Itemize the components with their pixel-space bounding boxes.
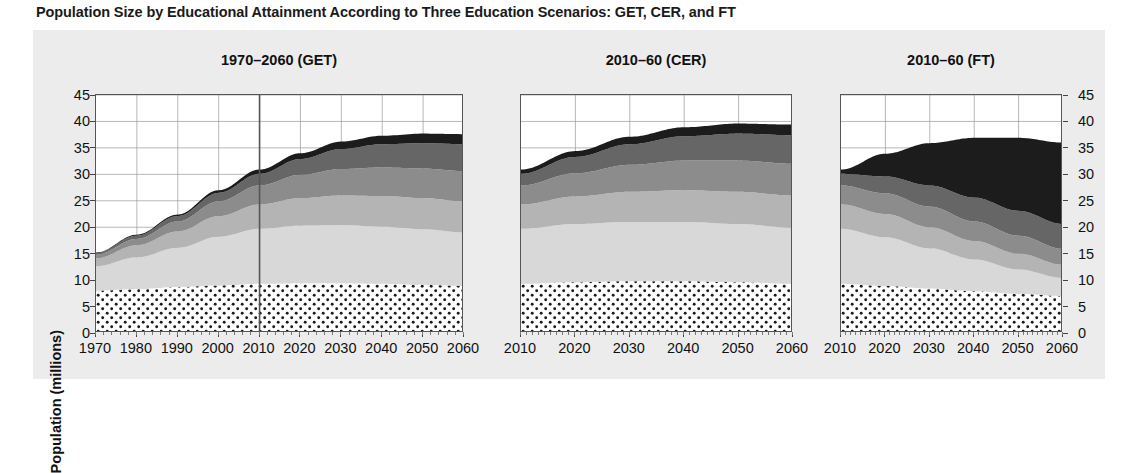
x-minor-tickmark bbox=[879, 332, 880, 335]
x-minor-tickmark bbox=[1013, 332, 1014, 335]
x-minor-tickmark bbox=[904, 332, 905, 335]
y-tickmark bbox=[90, 95, 95, 96]
x-minor-tickmark bbox=[762, 332, 763, 335]
x-minor-tickmark bbox=[152, 332, 153, 335]
x-minor-tickmark bbox=[120, 332, 121, 335]
x-minor-tickmark bbox=[332, 332, 333, 335]
x-minor-tickmark bbox=[968, 332, 969, 335]
x-axis-tick-get-2020: 2020 bbox=[283, 341, 315, 356]
x-minor-tickmark bbox=[617, 332, 618, 335]
x-minor-tickmark bbox=[750, 332, 751, 335]
x-minor-tickmark bbox=[1047, 332, 1048, 335]
x-minor-tickmark bbox=[726, 332, 727, 335]
x-minor-tickmark bbox=[993, 332, 994, 335]
x-minor-tickmark bbox=[177, 332, 178, 335]
x-axis-cer: 201020202030204020502060 bbox=[520, 341, 792, 361]
x-minor-tickmark bbox=[201, 332, 202, 335]
area-layer-0 bbox=[521, 281, 792, 332]
x-minor-tickmark bbox=[919, 332, 920, 335]
x-minor-tickmark bbox=[193, 332, 194, 335]
panel-title-get: 1970–2060 (GET) bbox=[95, 52, 463, 68]
x-minor-tickmark bbox=[958, 332, 959, 335]
x-axis-ft: 201020202030204020502060 bbox=[840, 341, 1062, 361]
x-minor-tickmark bbox=[929, 332, 930, 335]
x-axis-tick-cer-2040: 2040 bbox=[667, 341, 699, 356]
x-minor-tickmark bbox=[580, 332, 581, 335]
y-axis-tick-right-40: 40 bbox=[1078, 114, 1094, 129]
panel-title-cer: 2010–60 (CER) bbox=[520, 52, 792, 68]
plot-area-cer bbox=[520, 94, 792, 332]
x-axis-tick-ft-2010: 2010 bbox=[824, 341, 856, 356]
x-axis-tick-get-2030: 2030 bbox=[324, 341, 356, 356]
x-minor-tickmark bbox=[526, 332, 527, 335]
x-minor-tickmark bbox=[316, 332, 317, 335]
x-minor-tickmark bbox=[250, 332, 251, 335]
x-minor-tickmark bbox=[209, 332, 210, 335]
x-minor-tickmark bbox=[593, 332, 594, 335]
x-minor-tickmark bbox=[909, 332, 910, 335]
y-tickmark bbox=[1063, 306, 1068, 307]
y-tickmark bbox=[90, 253, 95, 254]
x-minor-tickmark bbox=[738, 332, 739, 335]
x-minor-tickmark bbox=[1032, 332, 1033, 335]
y-tickmark bbox=[1063, 253, 1068, 254]
x-minor-tickmark bbox=[1052, 332, 1053, 335]
x-minor-tickmark bbox=[689, 332, 690, 335]
x-minor-tickmark bbox=[308, 332, 309, 335]
y-tickmark bbox=[90, 306, 95, 307]
x-axis-tick-cer-2030: 2030 bbox=[613, 341, 645, 356]
y-axis-tick-left-40: 40 bbox=[74, 114, 90, 129]
x-minor-tickmark bbox=[1018, 332, 1019, 335]
x-minor-tickmark bbox=[983, 332, 984, 335]
x-minor-tickmark bbox=[128, 332, 129, 335]
x-axis-tick-get-2040: 2040 bbox=[365, 341, 397, 356]
y-axis-tick-right-15: 15 bbox=[1078, 246, 1094, 261]
x-minor-tickmark bbox=[934, 332, 935, 335]
x-minor-tickmark bbox=[550, 332, 551, 335]
x-minor-tickmark bbox=[455, 332, 456, 335]
x-minor-tickmark bbox=[744, 332, 745, 335]
x-minor-tickmark bbox=[103, 332, 104, 335]
x-minor-tickmark bbox=[855, 332, 856, 335]
x-minor-tickmark bbox=[438, 332, 439, 335]
y-axis-tick-right-25: 25 bbox=[1078, 194, 1094, 209]
x-minor-tickmark bbox=[373, 332, 374, 335]
x-minor-tickmark bbox=[780, 332, 781, 335]
x-minor-tickmark bbox=[365, 332, 366, 335]
y-axis-tick-left-45: 45 bbox=[74, 88, 90, 103]
y-tickmark bbox=[90, 200, 95, 201]
x-axis-tick-ft-2040: 2040 bbox=[957, 341, 989, 356]
y-tickmark bbox=[1063, 95, 1068, 96]
x-minor-tickmark bbox=[463, 332, 464, 335]
y-tickmark bbox=[90, 121, 95, 122]
y-axis-tick-left-20: 20 bbox=[74, 220, 90, 235]
y-tickmark bbox=[90, 280, 95, 281]
x-minor-tickmark bbox=[683, 332, 684, 335]
y-axis-tick-left-5: 5 bbox=[82, 299, 90, 314]
x-minor-tickmark bbox=[144, 332, 145, 335]
x-minor-tickmark bbox=[973, 332, 974, 335]
x-minor-tickmark bbox=[605, 332, 606, 335]
x-minor-tickmark bbox=[111, 332, 112, 335]
x-minor-tickmark bbox=[899, 332, 900, 335]
y-axis-tick-left-30: 30 bbox=[74, 167, 90, 182]
x-minor-tickmark bbox=[520, 332, 521, 335]
x-axis-tick-get-1990: 1990 bbox=[161, 341, 193, 356]
x-minor-tickmark bbox=[611, 332, 612, 335]
x-minor-tickmark bbox=[406, 332, 407, 335]
x-minor-tickmark bbox=[381, 332, 382, 335]
y-axis-tick-left-15: 15 bbox=[74, 246, 90, 261]
y-axis-left: 454035302520151050 bbox=[60, 95, 90, 333]
x-minor-tickmark bbox=[349, 332, 350, 335]
y-tickmark bbox=[1063, 280, 1068, 281]
y-tickmark bbox=[1063, 121, 1068, 122]
x-axis-tick-get-2010: 2010 bbox=[242, 341, 274, 356]
x-minor-tickmark bbox=[875, 332, 876, 335]
x-minor-tickmark bbox=[1042, 332, 1043, 335]
x-minor-tickmark bbox=[894, 332, 895, 335]
x-axis-tick-get-2050: 2050 bbox=[406, 341, 438, 356]
x-minor-tickmark bbox=[845, 332, 846, 335]
x-axis-get: 1970198019902000201020202030204020502060 bbox=[95, 341, 463, 361]
x-minor-tickmark bbox=[599, 332, 600, 335]
